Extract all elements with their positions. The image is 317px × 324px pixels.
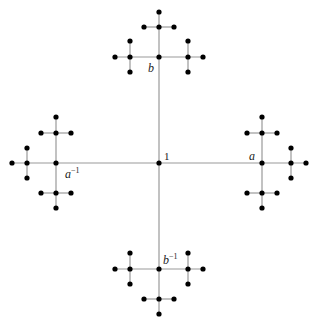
vertex [274, 130, 279, 135]
vertex [141, 296, 146, 301]
vertex [288, 175, 293, 180]
vertex [156, 296, 161, 301]
vertex [156, 311, 161, 316]
vertex [127, 69, 132, 74]
vertex [156, 9, 161, 14]
label-a: a [249, 149, 255, 163]
vertex [127, 250, 132, 255]
vertex [200, 54, 205, 59]
vertex [303, 160, 308, 165]
vertex [156, 54, 161, 59]
vertex [9, 160, 14, 165]
vertex [127, 281, 132, 286]
vertex [244, 190, 249, 195]
vertex [53, 205, 58, 210]
vertex [185, 250, 190, 255]
vertex [259, 190, 264, 195]
label-b: b [148, 61, 154, 75]
vertex [259, 114, 264, 119]
vertex [156, 160, 161, 165]
vertex [274, 190, 279, 195]
vertex [68, 130, 73, 135]
vertex [200, 266, 205, 271]
graph-canvas: 1 a a−1 b b−1 [0, 0, 317, 324]
vertex [38, 130, 43, 135]
vertex [288, 160, 293, 165]
vertex [127, 54, 132, 59]
vertex [244, 130, 249, 135]
vertex [259, 160, 264, 165]
vertex [53, 130, 58, 135]
vertex [185, 69, 190, 74]
vertex [127, 266, 132, 271]
vertex [127, 38, 132, 43]
cayley-graph-diagram: 1 a a−1 b b−1 [0, 0, 317, 324]
vertex [68, 190, 73, 195]
vertex [156, 266, 161, 271]
nodes [9, 9, 308, 316]
vertex [171, 296, 176, 301]
vertex [112, 54, 117, 59]
vertex [53, 190, 58, 195]
vertex [171, 24, 176, 29]
vertex [185, 281, 190, 286]
vertex [156, 24, 161, 29]
label-a-inverse: a−1 [65, 166, 80, 181]
vertex [24, 175, 29, 180]
vertex [24, 145, 29, 150]
vertex [24, 160, 29, 165]
label-identity: 1 [164, 150, 170, 162]
vertex [53, 114, 58, 119]
vertex [259, 130, 264, 135]
vertex [185, 266, 190, 271]
vertex [288, 145, 293, 150]
vertex [141, 24, 146, 29]
vertex [185, 54, 190, 59]
vertex [185, 38, 190, 43]
label-b-inverse: b−1 [163, 252, 178, 267]
vertex [112, 266, 117, 271]
vertex [38, 190, 43, 195]
vertex [53, 160, 58, 165]
vertex [259, 205, 264, 210]
